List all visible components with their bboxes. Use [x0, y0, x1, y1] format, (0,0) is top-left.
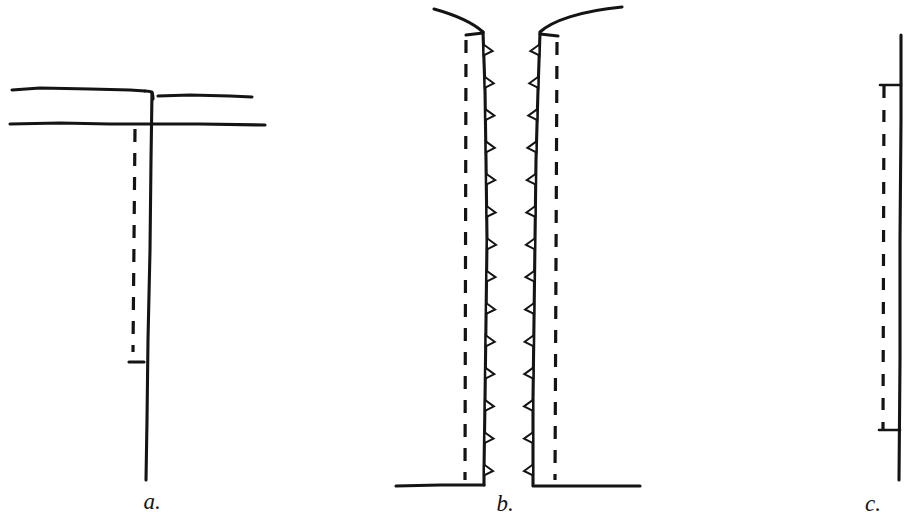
figure-c-label: c. [865, 491, 881, 516]
figure-b-floor-left-segment [396, 485, 484, 486]
figure-a-upper-horizontal-line-right [158, 95, 252, 97]
figure-a-lower-horizontal-line [10, 123, 265, 125]
figure-b-right-wall-top-cap [540, 34, 558, 36]
figure-drawing-canvas: a. b. c. [0, 0, 904, 520]
figure-b-left-wall-top-cap [466, 33, 483, 35]
figure-b-label: b. [496, 491, 513, 516]
figure-c-vertical-dashed-line [883, 86, 884, 430]
page-background [0, 0, 904, 520]
figure-a-label: a. [143, 489, 160, 514]
figure-plate: a. b. c. [0, 0, 904, 520]
